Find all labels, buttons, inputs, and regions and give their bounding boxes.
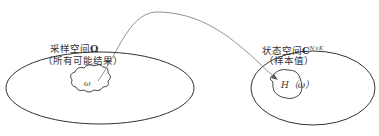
h-omega-label: H（ω）: [281, 80, 314, 91]
state-space-subtitle: （样本值）: [264, 55, 314, 66]
omega-label: ω: [84, 78, 91, 89]
mapping-arrow: [98, 12, 275, 81]
sample-space-subtitle: （所有可能结果）: [43, 55, 123, 66]
sample-space-label: 采样空间Ω: [50, 43, 98, 54]
diagram-canvas: [0, 0, 379, 136]
